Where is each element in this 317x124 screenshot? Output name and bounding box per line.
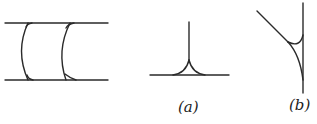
label-b: (b) (289, 98, 310, 113)
fillet-top-right (66, 23, 74, 28)
small-arc (288, 35, 303, 44)
label-a: (a) (178, 100, 199, 115)
panel-b (257, 3, 303, 93)
cusp-right (189, 60, 205, 75)
diagonal-line (257, 11, 288, 42)
figure-canvas: (a) (b) (0, 0, 317, 124)
fillet-bottom-right (65, 74, 76, 80)
right-arc (62, 23, 70, 80)
left-arc (22, 23, 29, 80)
curved-fillet (288, 42, 303, 80)
panel-a (150, 22, 229, 75)
figure-drawing (0, 0, 317, 124)
cusp-left (173, 60, 189, 75)
panel-left (5, 23, 108, 80)
